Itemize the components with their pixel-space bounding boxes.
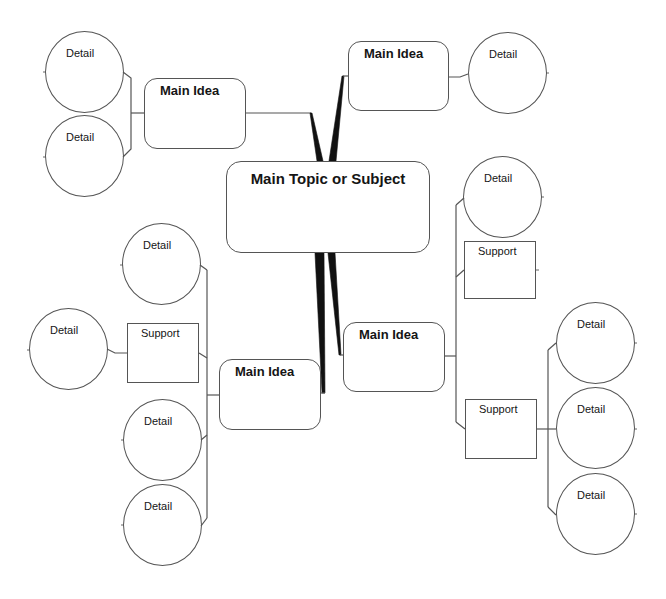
detail-label: Detail — [484, 173, 512, 184]
detail-label: Detail — [144, 501, 172, 512]
detail-circle: Detail — [122, 223, 201, 305]
support-label: Support — [478, 246, 517, 257]
detail-circle: Detail — [468, 32, 547, 114]
detail-circle: Detail — [45, 31, 124, 113]
main-topic-box: Main Topic or Subject — [226, 161, 430, 253]
main-idea-box-top-right: Main Idea — [348, 41, 449, 111]
detail-circle: Detail — [45, 115, 124, 197]
detail-label: Detail — [50, 325, 78, 336]
connector-bottom-right-support2 — [456, 422, 465, 429]
main-idea-box-bottom-left: Main Idea — [219, 359, 321, 430]
support-box-left: Support — [127, 323, 199, 383]
support-box-right-upper: Support — [464, 241, 536, 299]
connector-support-to-far-detail — [107, 349, 127, 353]
main-topic-label: Main Topic or Subject — [227, 171, 429, 186]
main-idea-label: Main Idea — [364, 47, 423, 60]
detail-circle: Detail — [123, 484, 202, 566]
connector-bottom-right-support1 — [456, 270, 464, 277]
detail-label: Detail — [66, 48, 94, 59]
connector-bottom-left-detail-upper — [200, 265, 207, 270]
connector-bottom-left-support — [199, 353, 207, 358]
main-idea-box-bottom-right: Main Idea — [343, 322, 445, 392]
detail-circle: Detail — [29, 308, 108, 390]
connector-support2-detail-top — [548, 343, 556, 350]
main-idea-label: Main Idea — [235, 365, 294, 378]
detail-label: Detail — [143, 240, 171, 251]
detail-label: Detail — [144, 416, 172, 427]
support-box-right-lower: Support — [465, 399, 537, 459]
detail-label: Detail — [577, 490, 605, 501]
detail-label: Detail — [66, 132, 94, 143]
main-idea-box-top-left: Main Idea — [144, 78, 246, 149]
bracket-top-left-details — [123, 72, 131, 157]
support-label: Support — [141, 328, 180, 339]
main-idea-label: Main Idea — [359, 328, 418, 341]
detail-circle: Detail — [463, 156, 542, 238]
detail-circle: Detail — [556, 387, 635, 469]
wedge-top-left — [310, 113, 323, 161]
detail-circle: Detail — [556, 473, 635, 555]
connector-support2-detail-bottom — [548, 507, 556, 515]
detail-circle: Detail — [123, 399, 202, 481]
main-idea-label: Main Idea — [160, 84, 219, 97]
wedge-top-right — [329, 76, 344, 161]
support-label: Support — [479, 404, 518, 415]
connector-top-right-idea-to-detail — [449, 74, 468, 77]
wedge-bottom-right — [328, 253, 341, 355]
detail-label: Detail — [577, 404, 605, 415]
graphic-organizer-canvas: Main Topic or Subject Main Idea Detail D… — [0, 0, 666, 599]
detail-circle: Detail — [556, 302, 635, 384]
detail-label: Detail — [489, 49, 517, 60]
detail-label: Detail — [577, 319, 605, 330]
